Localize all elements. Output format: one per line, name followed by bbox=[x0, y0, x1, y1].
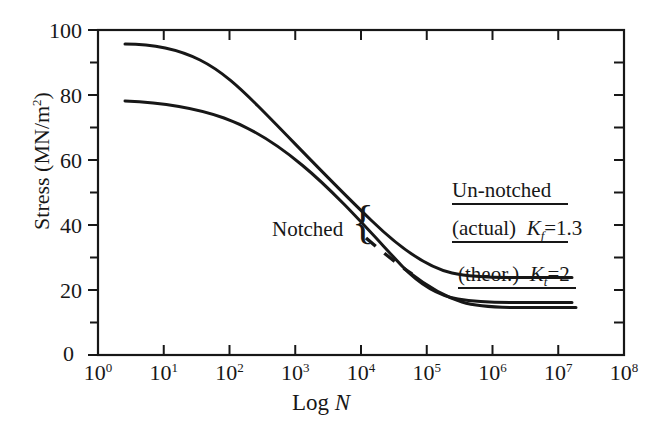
x-axis-title-variable: N bbox=[335, 390, 350, 415]
x-tick-label-1e2: 102 bbox=[200, 360, 260, 386]
x-tick-base-4: 10 bbox=[347, 360, 369, 385]
x-tick-base-2: 10 bbox=[215, 360, 237, 385]
y-axis-title-exponent: 2 bbox=[29, 99, 44, 106]
x-tick-label-1e6: 106 bbox=[463, 360, 523, 386]
x-tick-base-5: 10 bbox=[413, 360, 435, 385]
x-tick-base-0: 10 bbox=[84, 360, 106, 385]
x-tick-exp-1: 1 bbox=[172, 360, 179, 375]
series-label-un-notched: Un-notched bbox=[452, 178, 551, 203]
x-tick-exp-0: 0 bbox=[106, 360, 113, 375]
x-tick-exp-4: 4 bbox=[369, 360, 376, 375]
annotation-notched-brace: { bbox=[352, 200, 374, 246]
x-tick-base-6: 10 bbox=[478, 360, 500, 385]
x-tick-label-1e1: 101 bbox=[134, 360, 194, 386]
x-tick-base-1: 10 bbox=[150, 360, 172, 385]
series-label-theor-value: =2 bbox=[547, 262, 569, 286]
x-tick-label-1e8: 108 bbox=[594, 360, 654, 386]
x-axis-bottom-ticks bbox=[164, 345, 559, 355]
x-tick-exp-3: 3 bbox=[303, 360, 310, 375]
x-tick-label-1e4: 104 bbox=[331, 360, 391, 386]
annotation-notched-label: Notched bbox=[272, 217, 343, 242]
x-tick-base-7: 10 bbox=[544, 360, 566, 385]
x-tick-label-1e3: 103 bbox=[265, 360, 325, 386]
right-axis-ticks bbox=[614, 63, 624, 323]
x-tick-exp-6: 6 bbox=[500, 360, 507, 375]
series-label-theor-symbol: K bbox=[530, 262, 544, 286]
x-axis-title: Log N bbox=[292, 390, 350, 416]
y-axis-title-wrapper: Stress (MN/m2) bbox=[29, 31, 55, 291]
series-label-notched-theoretical: (theor.) Kt=2 bbox=[458, 262, 570, 287]
x-tick-label-1e7: 107 bbox=[528, 360, 588, 386]
x-tick-base-8: 10 bbox=[610, 360, 632, 385]
x-tick-label-1e5: 105 bbox=[397, 360, 457, 386]
y-axis-title: Stress (MN/m2) bbox=[29, 92, 54, 230]
x-tick-exp-5: 5 bbox=[435, 360, 442, 375]
series-label-actual-symbol: K bbox=[527, 216, 541, 240]
series-label-actual-prefix: (actual) bbox=[452, 216, 516, 240]
series-label-theor-prefix: (theor.) bbox=[458, 262, 519, 286]
x-tick-base-3: 10 bbox=[281, 360, 303, 385]
y-axis-title-close: ) bbox=[29, 92, 54, 99]
x-axis-title-main: Log bbox=[292, 390, 335, 415]
x-tick-label-1e0: 100 bbox=[68, 360, 128, 386]
y-axis-title-main: Stress (MN/m bbox=[29, 106, 54, 230]
series-label-notched-actual: (actual) Kf=1.3 bbox=[452, 216, 582, 241]
x-tick-exp-8: 8 bbox=[632, 360, 639, 375]
series-label-actual-value: =1.3 bbox=[544, 216, 582, 240]
x-tick-exp-2: 2 bbox=[237, 360, 244, 375]
x-tick-exp-7: 7 bbox=[566, 360, 573, 375]
x-axis-top-ticks bbox=[164, 30, 559, 40]
fatigue-s-n-curve-figure: 100 80 60 40 20 0 Stress (MN/m2) 100 101… bbox=[0, 0, 672, 425]
y-axis-minor-ticks bbox=[90, 63, 98, 323]
